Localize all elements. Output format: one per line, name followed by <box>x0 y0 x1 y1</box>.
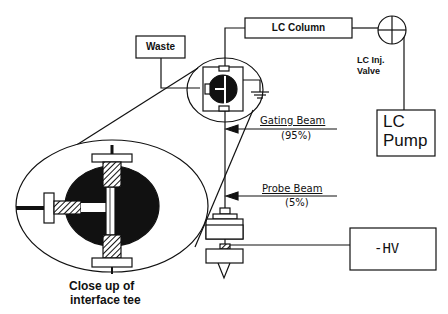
gating-beam-label: Gating Beam <box>260 116 325 126</box>
lc-inj-valve-label-2: Valve <box>357 67 380 76</box>
lc-inj-valve-label-1: LC Inj. <box>357 56 385 65</box>
lc-column-label: LC Column <box>245 23 352 33</box>
diagram-canvas <box>0 0 448 314</box>
lc-pump-label-1: LC <box>383 113 405 130</box>
inset-caption-1: Close up of <box>69 280 134 292</box>
inset-caption-2: interface tee <box>70 294 141 306</box>
probe-beam-percent: (5%) <box>285 198 309 208</box>
hv-label: -HV <box>374 241 399 255</box>
probe-beam-label: Probe Beam <box>262 184 322 194</box>
waste-label: Waste <box>136 42 185 52</box>
lc-pump-label-2: Pump <box>383 132 427 149</box>
gating-beam-percent: (95%) <box>281 131 311 141</box>
